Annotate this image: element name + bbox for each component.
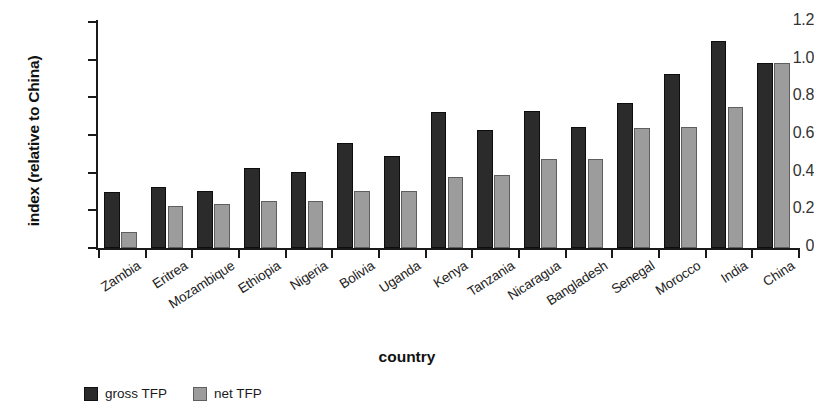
bar-group	[238, 22, 285, 248]
bar-gross-tfp	[384, 156, 400, 248]
bar-group	[518, 22, 565, 248]
bar-group	[751, 22, 798, 248]
bar-gross-tfp	[757, 63, 773, 249]
bar-gross-tfp	[524, 111, 540, 248]
legend-item-net: net TFP	[193, 386, 262, 401]
bar-gross-tfp	[104, 192, 120, 248]
bar-net-tfp	[121, 232, 137, 248]
x-axis-tick	[378, 250, 380, 258]
bar-net-tfp	[308, 201, 324, 248]
x-axis-tick	[238, 250, 240, 258]
bar-group	[705, 22, 752, 248]
x-axis-tick-label: Morocco	[653, 258, 703, 298]
x-axis-tick	[331, 250, 333, 258]
legend-item-gross: gross TFP	[84, 386, 167, 401]
bar-group	[331, 22, 378, 248]
y-axis-tick	[88, 172, 96, 174]
x-axis-tick-label: Zambia	[99, 258, 144, 294]
bar-gross-tfp	[197, 191, 213, 248]
bar-net-tfp	[448, 177, 464, 248]
x-axis-tick-label: Uganda	[377, 258, 424, 296]
bar-gross-tfp	[711, 41, 727, 248]
legend-swatch-net-icon	[193, 387, 207, 401]
bar-group	[98, 22, 145, 248]
x-axis-tick-label: Bolivia	[336, 258, 376, 291]
bar-net-tfp	[168, 206, 184, 248]
bar-chart-figure: index (relative to China) 00.20.40.60.81…	[0, 0, 814, 418]
x-axis-line	[96, 248, 800, 250]
y-axis-tick	[88, 247, 96, 249]
legend-label: net TFP	[214, 386, 262, 401]
x-axis-tick	[471, 250, 473, 258]
bar-net-tfp	[541, 159, 557, 248]
x-axis-tick	[611, 250, 613, 258]
bar-gross-tfp	[617, 103, 633, 248]
bar-group	[191, 22, 238, 248]
y-axis-title: index (relative to China)	[25, 11, 43, 271]
y-axis-tick	[88, 209, 96, 211]
x-axis-tick	[705, 250, 707, 258]
bar-gross-tfp	[431, 112, 447, 248]
x-axis-tick	[145, 250, 147, 258]
x-axis-tick-label: India	[718, 258, 750, 286]
x-axis-tick	[518, 250, 520, 258]
bar-gross-tfp	[244, 168, 260, 248]
bar-gross-tfp	[151, 187, 167, 248]
x-axis-tick	[425, 250, 427, 258]
x-axis-tick	[191, 250, 193, 258]
x-axis-title: country	[0, 348, 814, 366]
bar-net-tfp	[494, 175, 510, 248]
x-axis-tick	[751, 250, 753, 258]
x-axis-tick	[798, 250, 800, 258]
bar-gross-tfp	[477, 130, 493, 248]
bar-net-tfp	[634, 128, 650, 248]
y-axis-tick	[88, 21, 96, 23]
bar-group	[658, 22, 705, 248]
bar-gross-tfp	[291, 172, 307, 248]
bar-gross-tfp	[571, 127, 587, 248]
bar-group	[378, 22, 425, 248]
x-axis-tick	[285, 250, 287, 258]
x-axis-tick-label: China	[760, 258, 797, 289]
y-axis-tick	[88, 134, 96, 136]
bar-group	[145, 22, 192, 248]
x-axis-tick	[98, 250, 100, 258]
bar-group	[565, 22, 612, 248]
chart-legend: gross TFPnet TFP	[84, 386, 262, 401]
bar-gross-tfp	[664, 74, 680, 248]
bar-group	[471, 22, 518, 248]
legend-label: gross TFP	[105, 386, 167, 401]
x-axis-tick-label: Senegal	[608, 258, 657, 297]
bar-net-tfp	[261, 201, 277, 248]
bar-net-tfp	[728, 107, 744, 248]
bar-net-tfp	[401, 191, 417, 248]
bar-net-tfp	[774, 63, 790, 249]
y-axis-tick	[88, 59, 96, 61]
x-axis-tick	[658, 250, 660, 258]
plot-area	[98, 22, 798, 248]
bar-group	[285, 22, 332, 248]
x-axis-tick-label: Ethiopia	[236, 258, 284, 296]
x-axis-tick-label: Nigeria	[287, 258, 330, 293]
legend-swatch-gross-icon	[84, 387, 98, 401]
bar-net-tfp	[588, 159, 604, 248]
y-axis-tick	[88, 96, 96, 98]
bar-net-tfp	[214, 204, 230, 248]
bar-net-tfp	[354, 191, 370, 248]
x-axis-tick	[565, 250, 567, 258]
bar-gross-tfp	[337, 143, 353, 248]
bar-net-tfp	[681, 127, 697, 248]
bar-group	[611, 22, 658, 248]
bar-group	[425, 22, 472, 248]
